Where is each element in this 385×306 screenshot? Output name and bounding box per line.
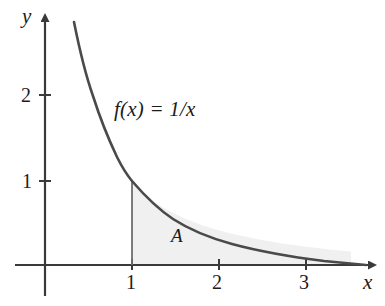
x-tick-label-2: 2 bbox=[212, 272, 222, 292]
x-tick-label-1: 1 bbox=[126, 272, 136, 292]
x-tick-label-3: 3 bbox=[299, 272, 309, 292]
plot-canvas bbox=[0, 0, 385, 306]
y-axis-label: y bbox=[22, 6, 31, 27]
shaded-region-A bbox=[132, 181, 351, 265]
figure-1-over-x-area: y x f(x) = 1/x A 1 2 3 1 2 bbox=[0, 0, 385, 306]
region-label-A: A bbox=[171, 226, 183, 245]
y-tick-label-1: 1 bbox=[22, 171, 32, 191]
y-tick-label-2: 2 bbox=[21, 85, 31, 105]
curve-f-of-x bbox=[74, 22, 366, 265]
function-label: f(x) = 1/x bbox=[114, 99, 195, 120]
x-axis-label: x bbox=[363, 272, 372, 293]
